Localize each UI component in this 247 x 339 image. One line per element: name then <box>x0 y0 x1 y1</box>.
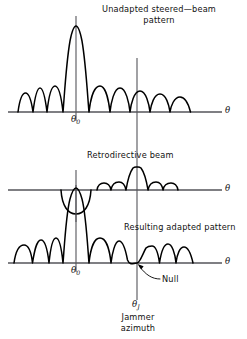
null-callout-arrow <box>140 267 161 280</box>
beam-pattern-svg <box>0 0 247 339</box>
null-callout-arrowhead <box>138 264 144 270</box>
panel2-caption: Retrodirective beam <box>87 150 174 161</box>
beam-pattern-figure: Unadapted steered—beam pattern θ θ0 Retr… <box>0 0 247 339</box>
panel3-thetaj-label: θJ <box>132 299 140 310</box>
thetaj-subscript: J <box>137 303 139 310</box>
panel3-caption: Resulting adapted pattern <box>124 222 236 233</box>
null-annotation-label: Null <box>162 274 179 284</box>
panel1-theta0-label: θ0 <box>71 114 80 125</box>
panel1-pattern-curve <box>18 26 191 112</box>
panel-retrodirective-beam <box>8 120 222 222</box>
panel2-theta-axis-label: θ <box>225 183 230 193</box>
theta0-subscript: 0 <box>76 118 80 125</box>
panel1-caption-line2: pattern <box>84 15 234 26</box>
jammer-azimuth-annotation: Jammer azimuth <box>111 312 165 333</box>
jammer-azimuth-line2: azimuth <box>111 323 165 334</box>
theta0-subscript: 0 <box>76 269 80 276</box>
panel-unadapted-steered-beam <box>8 16 222 121</box>
panel3-theta-axis-label: θ <box>225 256 230 266</box>
panel1-caption-line1: Unadapted steered—beam <box>84 4 234 15</box>
panel3-theta0-label: θ0 <box>71 265 80 276</box>
panel1-theta-axis-label: θ <box>225 105 230 115</box>
panel-resulting-adapted-pattern <box>8 185 222 300</box>
jammer-azimuth-line1: Jammer <box>111 312 165 323</box>
panel1-caption: Unadapted steered—beam pattern <box>84 4 234 25</box>
